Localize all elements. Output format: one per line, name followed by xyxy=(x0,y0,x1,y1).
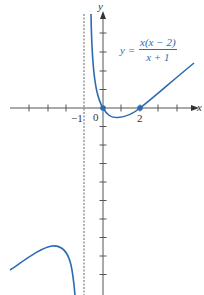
x-axis-label: x xyxy=(197,102,202,113)
point-x-2 xyxy=(137,105,143,111)
curve-right-branch xyxy=(91,14,194,118)
equation-label: y = x(x − 2) x + 1 xyxy=(120,36,177,63)
tick-label-0: 0 xyxy=(93,112,99,123)
equation-fraction: x(x − 2) x + 1 xyxy=(139,36,177,63)
y-axis-arrow-icon xyxy=(100,11,106,19)
equation-numerator: x(x − 2) xyxy=(139,36,177,50)
tick-label-neg1: −1 xyxy=(71,113,83,124)
tick-label-2: 2 xyxy=(137,113,143,124)
point-origin xyxy=(100,105,106,111)
curve-left-branch xyxy=(10,246,75,295)
equation-lhs: y = xyxy=(120,44,135,56)
y-axis xyxy=(100,14,107,295)
y-axis-label: y xyxy=(98,1,103,12)
equation-denominator: x + 1 xyxy=(146,50,169,63)
